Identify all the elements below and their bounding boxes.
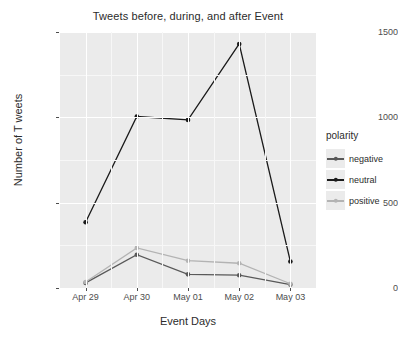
x-tick-mark bbox=[86, 288, 87, 291]
y-tick-label: 1000 bbox=[352, 112, 398, 122]
legend-item-positive[interactable]: positive bbox=[326, 190, 398, 211]
x-tick-mark bbox=[239, 288, 240, 291]
legend-item-negative[interactable]: negative bbox=[326, 148, 398, 169]
y-tick-mark bbox=[56, 203, 59, 204]
y-tick-mark bbox=[56, 32, 59, 33]
chart-title: Tweets before, during, and after Event bbox=[60, 10, 316, 22]
x-tick-mark bbox=[290, 288, 291, 291]
gridline-vertical-minor bbox=[265, 32, 266, 288]
y-axis-title: Number of T weets bbox=[12, 30, 24, 250]
y-tick-mark bbox=[56, 117, 59, 118]
x-tick-mark bbox=[137, 288, 138, 291]
chart-figure: Tweets before, during, and after Event 0… bbox=[0, 0, 398, 347]
x-tick-mark bbox=[188, 288, 189, 291]
gridline-vertical-major bbox=[290, 32, 291, 288]
legend-item-neutral[interactable]: neutral bbox=[326, 169, 398, 190]
gridline-vertical-major bbox=[137, 32, 138, 288]
legend: polarity negativeneutralpositive bbox=[326, 130, 398, 211]
legend-title: polarity bbox=[326, 130, 398, 141]
legend-key-icon bbox=[326, 149, 345, 168]
legend-key-icon bbox=[326, 191, 345, 210]
gridline-vertical-minor bbox=[111, 32, 112, 288]
x-tick-label: May 03 bbox=[260, 292, 320, 302]
y-tick-label: 1500 bbox=[352, 27, 398, 37]
legend-item-label: positive bbox=[349, 196, 380, 206]
gridline-vertical-major bbox=[86, 32, 87, 288]
plot-panel bbox=[60, 32, 316, 288]
gridline-vertical-major bbox=[188, 32, 189, 288]
legend-item-label: neutral bbox=[349, 175, 377, 185]
legend-item-label: negative bbox=[349, 154, 383, 164]
x-axis-title: Event Days bbox=[60, 315, 316, 327]
gridline-vertical-major bbox=[239, 32, 240, 288]
legend-items: negativeneutralpositive bbox=[326, 148, 398, 211]
y-tick-label: 0 bbox=[352, 283, 398, 293]
gridline-vertical-minor bbox=[214, 32, 215, 288]
y-tick-mark bbox=[56, 288, 59, 289]
gridline-vertical-minor bbox=[162, 32, 163, 288]
legend-key-icon bbox=[326, 170, 345, 189]
